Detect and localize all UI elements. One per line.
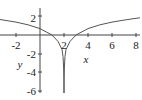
x-tick-label: -2 [11,39,20,51]
x-tick-label: 6 [109,39,115,51]
y-tick-label: -4 [27,66,37,78]
y-tick-label: -2 [27,48,36,60]
y-tick-label: -6 [27,85,37,97]
x-tick-label: 4 [85,39,91,51]
x-tick-label: 2 [61,39,67,51]
x-tick-label: 8 [133,39,139,51]
curve-right-branch [64,18,140,93]
y-axis-label: y [17,58,23,70]
x-axis-label: x [83,53,89,65]
y-tick-label: 2 [31,12,37,24]
chart: -2 2 4 6 8 2 -2 -4 -6 x y [0,0,142,100]
